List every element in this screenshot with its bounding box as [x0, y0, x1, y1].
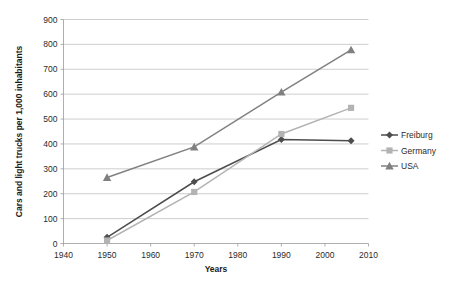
x-tick-label-2000: 2000: [315, 250, 334, 260]
x-tick-label-1970: 1970: [185, 250, 204, 260]
y-tick-label-300: 300: [43, 164, 57, 174]
data-point-usa-1990: [277, 88, 285, 96]
data-point-usa-2006: [347, 46, 355, 54]
x-tick-label-1960: 1960: [141, 250, 160, 260]
y-axis-title: Cars and light trucks per 1,000 inhabita…: [14, 45, 24, 217]
y-tick-label-700: 700: [43, 64, 57, 74]
y-tick-label-400: 400: [43, 139, 57, 149]
legend-marker-germany: [386, 147, 392, 153]
y-tick-label-900: 900: [43, 15, 57, 25]
y-tick-label-200: 200: [43, 189, 57, 199]
data-point-germany-1970: [191, 189, 197, 195]
chart-canvas: 0100200300400500600700800900194019501960…: [0, 0, 454, 288]
series-line-germany: [107, 108, 351, 241]
data-point-freiburg-2006: [348, 137, 355, 144]
y-tick-label-100: 100: [43, 214, 57, 224]
legend-label-freiburg: Freiburg: [401, 130, 433, 140]
y-tick-label-500: 500: [43, 114, 57, 124]
x-tick-label-1990: 1990: [272, 250, 291, 260]
data-point-germany-2006: [348, 105, 354, 111]
x-tick-label-1980: 1980: [228, 250, 247, 260]
y-tick-label-800: 800: [43, 39, 57, 49]
legend-label-usa: USA: [401, 161, 419, 171]
x-tick-label-1940: 1940: [54, 250, 73, 260]
data-point-germany-1990: [278, 131, 284, 137]
x-tick-label-2010: 2010: [359, 250, 378, 260]
y-tick-label-0: 0: [53, 239, 58, 249]
x-axis-title: Years: [205, 264, 228, 274]
data-point-germany-1950: [104, 237, 110, 243]
y-tick-label-600: 600: [43, 89, 57, 99]
x-tick-label-1950: 1950: [98, 250, 117, 260]
legend-label-germany: Germany: [401, 146, 437, 156]
series-line-freiburg: [107, 139, 351, 237]
legend-marker-freiburg: [386, 132, 393, 139]
line-chart: 0100200300400500600700800900194019501960…: [0, 0, 454, 288]
